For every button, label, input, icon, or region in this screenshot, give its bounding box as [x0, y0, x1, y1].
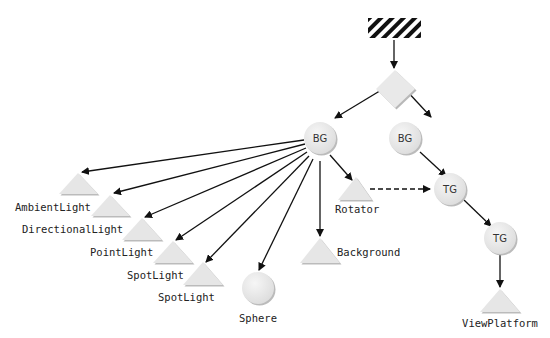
edge-bgright-tg: [420, 152, 446, 176]
edge-bg-ambient: [82, 140, 304, 172]
node-spot2-label: SpotLight: [158, 291, 215, 303]
node-tg-top: TG: [434, 173, 468, 207]
node-rotator: [338, 177, 374, 202]
node-directional: [91, 195, 132, 218]
node-rotator-label: Rotator: [335, 203, 379, 215]
node-bg-right: BG: [389, 122, 423, 156]
node-bg-right-label: BG: [398, 133, 412, 144]
node-background-label: Background: [337, 246, 400, 258]
edge-bg-rotator: [330, 155, 352, 180]
node-bg-left-label: BG: [313, 133, 327, 144]
node-background: [300, 238, 342, 265]
node-sphere: [242, 272, 276, 306]
node-bg-left: BG: [304, 122, 338, 156]
scene-graph-diagram: BG BG TG TG Sphere AmbientLight Directio…: [0, 0, 550, 338]
locale-node: [368, 18, 421, 38]
node-spot2: [183, 262, 225, 287]
node-spot1-label: SpotLight: [127, 269, 184, 281]
node-point: [122, 218, 164, 242]
edge-bg-directional: [114, 144, 305, 193]
node-tg-bottom-label: TG: [492, 233, 507, 244]
node-sphere-label: Sphere: [239, 312, 277, 324]
edge-root-bgleft: [335, 89, 383, 118]
node-point-label: PointLight: [90, 246, 153, 258]
edge-tg-tg: [464, 200, 491, 226]
node-spot1: [153, 241, 195, 265]
virtual-universe-node: [376, 70, 417, 110]
edge-bg-sphere: [259, 159, 313, 270]
node-tg-top-label: TG: [442, 184, 457, 195]
node-viewplatform-label: ViewPlatform: [462, 317, 538, 329]
node-tg-bottom: TG: [484, 222, 518, 256]
node-viewplatform: [480, 289, 522, 314]
node-ambient-label: AmbientLight: [15, 201, 91, 213]
node-ambient: [59, 173, 100, 196]
node-directional-label: DirectionalLight: [22, 223, 123, 235]
